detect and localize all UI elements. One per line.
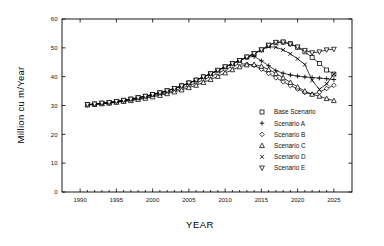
y-axis-title: Million cu m/Year [15,66,26,143]
legend-label: Scenario D [274,153,306,160]
chart-container: 19901995200020052010201520202025 0102030… [0,0,384,246]
legend-label: Scenario C [274,142,306,149]
y-tick-label: 30 [51,103,58,109]
y-tick-label: 60 [51,16,58,22]
legend-label: Scenario A [274,120,306,127]
data-point-square-open [325,68,329,72]
y-tick-label: 40 [51,74,58,80]
x-tick-label: 2020 [291,197,305,203]
y-tick-label: 20 [51,132,58,138]
x-tick-label: 1995 [110,197,124,203]
x-tick-label: 2025 [327,197,341,203]
data-point-square-open [317,61,321,65]
legend-label: Scenario E [274,164,305,171]
x-tick-label: 2010 [218,197,232,203]
x-tick-label: 2015 [255,197,269,203]
legend-label: Scenario B [274,131,305,138]
line-chart: 19901995200020052010201520202025 0102030… [0,0,384,246]
y-tick-label: 10 [51,160,58,166]
chart-background [0,0,384,246]
data-point-square-open [260,110,264,114]
x-tick-label: 2005 [182,197,196,203]
x-axis-title: YEAR [186,219,214,230]
y-tick-label: 50 [51,45,58,51]
legend-label: Base Scenario [274,108,316,115]
x-tick-label: 2000 [146,197,160,203]
x-tick-label: 1990 [73,197,87,203]
